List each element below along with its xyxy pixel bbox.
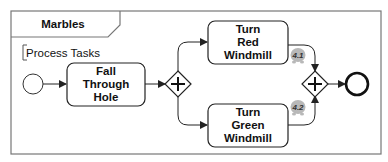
task-label-line: Turn [236,23,261,35]
token-label: 4.1 [291,51,304,60]
task-label-line: Green [231,119,264,131]
task-label-line: Through [83,78,130,90]
annotation-text: Process Tasks [26,47,100,59]
end-event-icon[interactable] [346,73,368,95]
token-label: 4.2 [291,103,304,112]
frame-title: Marbles [41,18,84,30]
task-label-line: Turn [236,106,261,118]
task-turn-red-windmill[interactable]: Turn Red Windmill [208,21,288,64]
text-annotation[interactable]: Process Tasks [23,45,100,60]
token-marker-4-1: 4.1 [291,48,306,64]
task-label-line: Hole [94,91,119,103]
bpmn-diagram: Marbles Process Tasks Fall Through Hole … [0,0,388,162]
token-marker-4-2: 4.2 [291,100,306,116]
task-label-line: Windmill [224,132,272,144]
task-fall-through-hole[interactable]: Fall Through Hole [67,63,145,106]
task-label-line: Red [237,36,259,48]
task-label-line: Fall [96,65,116,77]
task-label-line: Windmill [224,49,272,61]
start-event-icon[interactable] [23,74,43,94]
task-turn-green-windmill[interactable]: Turn Green Windmill [208,104,288,147]
